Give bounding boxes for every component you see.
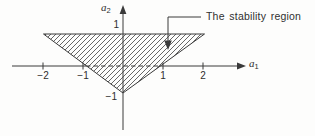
stability-triangle-region xyxy=(44,34,205,93)
stability-region-figure: a2 a1 1 −1 −2 −1 1 2 The stability regio… xyxy=(0,0,315,136)
x-tick-label-neg1: −1 xyxy=(73,71,93,81)
x-axis-label: a1 xyxy=(249,58,259,68)
x-axis-label-sub: 1 xyxy=(255,62,259,71)
x-tick-label-1: 1 xyxy=(153,71,173,81)
y-tick-label-1: 1 xyxy=(104,20,119,30)
x-tick-label-neg2: −2 xyxy=(33,71,53,81)
y-axis-label-sub: 2 xyxy=(107,6,111,15)
stability-region-callout-label: The stability region xyxy=(206,11,301,21)
x-axis-arrow-icon xyxy=(237,63,246,70)
y-tick-label-neg1: −1 xyxy=(100,92,117,102)
y-axis-arrow-icon xyxy=(120,5,127,14)
x-tick-label-2: 2 xyxy=(193,71,213,81)
y-axis-label: a2 xyxy=(101,2,111,12)
